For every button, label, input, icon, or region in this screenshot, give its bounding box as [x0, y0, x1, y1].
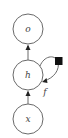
node-h-label: h — [25, 70, 31, 80]
node-x-label: x — [25, 114, 30, 124]
self-loop-label: f — [42, 87, 48, 97]
edge-x-to-h — [26, 91, 31, 105]
arrowhead-icon — [26, 45, 31, 51]
edge-h-self-loop — [40, 57, 63, 83]
delay-square-icon — [55, 57, 63, 65]
node-o-label: o — [25, 24, 31, 34]
node-o: o — [13, 14, 43, 44]
rnn-diagram: o h x f — [0, 0, 68, 138]
arrowhead-icon — [26, 91, 31, 97]
edge-h-to-o — [26, 45, 31, 61]
node-x: x — [13, 104, 43, 134]
node-h: h — [13, 60, 43, 90]
